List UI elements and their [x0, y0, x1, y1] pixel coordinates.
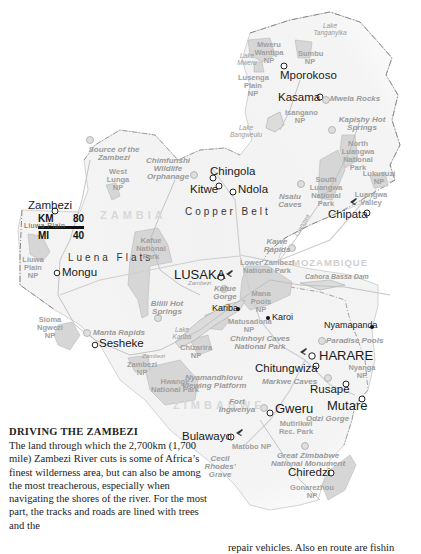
- park-label-lukusuzi: Lukusuzi NP: [362, 170, 396, 186]
- park-label-matobo: Matobo NP: [232, 443, 271, 451]
- city-label-harare: HARARE: [319, 349, 373, 362]
- poi-label-nsalu-caves: Nsalu Caves: [275, 193, 305, 209]
- town-marker-gweru: [267, 410, 273, 416]
- poi-label-source-zambezi: Source of the Zambezi: [84, 146, 144, 162]
- poi-marker-kapishya: [329, 127, 336, 134]
- city-label-zambezi: Zambezi: [28, 200, 72, 212]
- poi-marker-nsalu: [298, 181, 305, 188]
- city-label-kariba: Kariba: [212, 304, 238, 313]
- park-label-sioma: Sioma Ngwezi NP: [34, 316, 66, 340]
- town-marker-sesheke: [92, 342, 98, 348]
- article-body: The land through which the 2,700km (1,70…: [9, 439, 214, 532]
- city-label-kasama: Kasama: [278, 92, 320, 104]
- poi-label-paradise-pools: Paradise Pools: [326, 337, 383, 345]
- park-label-zambezi-np: Zambezi NP: [126, 361, 158, 377]
- poi-label-fort-ingwenya: Fort Ingwenya: [213, 398, 261, 414]
- park-label-sumbu: Sumbu NP: [298, 50, 322, 66]
- town-marker-mongu: [54, 270, 60, 276]
- city-label-chingola: Chingola: [210, 166, 255, 178]
- region-label-liuwa-plain: Liuwa Plain: [24, 222, 65, 229]
- poi-label-cahora-bassa: Cahora Bassa Dam: [305, 273, 369, 280]
- river-label-zambezi: Zambezi: [188, 280, 211, 287]
- poi-label-markwe-caves: Markwe Caves: [262, 378, 317, 386]
- city-label-mporokoso: Mporokoso: [280, 70, 337, 82]
- park-label-south-luangwa: South Luangwa National Park: [306, 176, 346, 208]
- park-label-west-lunga: West Lunga NP: [103, 168, 133, 192]
- poi-marker-source-zambezi: [87, 137, 94, 144]
- park-label-isangano: Isangano NP: [285, 109, 315, 125]
- city-label-chiredzi: Chiredzi: [288, 467, 330, 479]
- town-marker-ndola: [230, 189, 236, 195]
- lake-label-tanganyika: Lake Tanganyika: [312, 22, 348, 36]
- article-heading: DRIVING THE ZAMBEZI: [9, 426, 138, 437]
- park-label-matusadona: Matusadona NP: [228, 318, 270, 334]
- park-label-hwange: Hwange National Park: [150, 378, 200, 394]
- park-label-kafue: Kafue National Park: [133, 237, 169, 261]
- poi-label-kafue-gorge: Kafue Gorge: [210, 285, 240, 301]
- scale-mi-value: 40: [73, 231, 84, 241]
- poi-marker-paradise: [319, 338, 326, 345]
- park-label-liuwa: Liuwa Plain NP: [18, 256, 48, 280]
- poi-label-chinhoyi: Chinhoyi Caves National Park: [225, 335, 295, 351]
- poi-marker-manta: [84, 330, 91, 337]
- city-label-kitwe: Kitwe: [190, 184, 218, 196]
- poi-label-mwela-rocks: Mwela Rocks: [330, 95, 380, 103]
- city-label-chitungwiza: Chitungwiza: [255, 363, 318, 375]
- city-label-ndola: Ndola: [238, 184, 268, 196]
- city-label-nyamapanda: Nyamapanda: [324, 321, 378, 330]
- poi-label-bilili: Bilili Hot Springs: [143, 300, 191, 316]
- city-label-karoi: Karoi: [272, 313, 293, 322]
- park-label-mweru: Mweru Wantipa NP: [254, 41, 284, 65]
- lake-label-mweru: Lake Mweru: [236, 52, 258, 66]
- park-label-gonarezhou: Gonarezhou NP: [290, 484, 334, 500]
- poi-label-great-zimbabwe: Great Zimbabwe National Monument: [264, 452, 352, 468]
- poi-label-chimfunshi: Chimfunshi Wildlife Orphanage: [140, 157, 196, 181]
- park-label-lusenga: Lusenga Plain NP: [238, 74, 268, 98]
- lake-label-bangweulu: Lake Bangweulu: [230, 124, 262, 138]
- poi-label-kawe-rapids: Kawe Rapids: [262, 238, 292, 254]
- park-label-mutirikwi: Mutirikwi Rec. Park: [276, 420, 316, 436]
- poi-marker-great-zimbabwe: [302, 443, 309, 450]
- city-label-sesheke: Sesheke: [99, 338, 144, 350]
- city-label-mongu: Mongu: [62, 267, 97, 279]
- park-label-north-luangwa: North Luangwa National Park: [338, 140, 378, 172]
- country-label-zambia: ZAMBIA: [100, 210, 167, 221]
- river-label-zambezi-upper: Zambezi: [142, 353, 165, 360]
- poi-label-kapishya: Kapishy Hot Springs: [336, 116, 388, 132]
- scale-mi-label: MI: [38, 231, 49, 241]
- city-label-chipata: Chipata: [328, 209, 368, 221]
- poi-label-manta-rapids: Manta Rapids: [93, 329, 145, 337]
- city-label-mutare: Mutare: [327, 399, 367, 412]
- scale-km-value: 80: [73, 214, 84, 224]
- poi-marker-mwela: [323, 97, 330, 104]
- article-column2-fragment: repair vehicles. Also en route are fishi…: [228, 542, 394, 553]
- park-label-mana-pools: Mana Pools NP: [247, 290, 275, 314]
- park-label-chizarira: Chizarira NP: [180, 344, 212, 360]
- town-marker-harare: [309, 353, 315, 359]
- region-label-copper-belt: Copper Belt: [185, 207, 271, 217]
- park-label-luangwa-valley: Luangwa Valley: [354, 191, 388, 207]
- poi-marker-markwe: [325, 375, 332, 382]
- country-label-mozambique: MOZAMBIQUE: [292, 258, 368, 268]
- park-label-lower-zambezi: Lower Zambezi National Park: [232, 259, 302, 275]
- park-label-nyanga: Nyanga NP: [348, 364, 376, 380]
- lake-label-kariba: Lake Kariba: [170, 326, 194, 340]
